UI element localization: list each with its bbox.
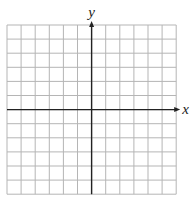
coordinate-plane: y x xyxy=(0,0,191,208)
x-axis-label: x xyxy=(181,101,189,117)
y-axis-arrow-icon xyxy=(89,21,94,27)
axes xyxy=(7,21,180,194)
y-axis-label: y xyxy=(86,4,95,20)
x-axis-arrow-icon xyxy=(174,107,180,112)
